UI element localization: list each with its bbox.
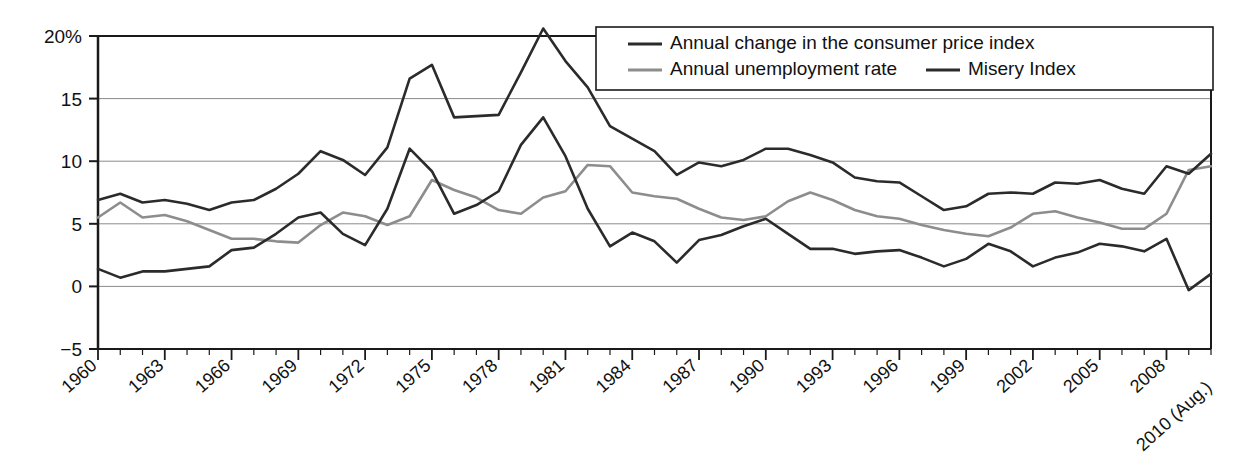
chart-canvas: −505101520% 1960196319661969197219751978… xyxy=(0,0,1260,469)
y-tick-label: 0 xyxy=(71,276,82,297)
legend-label-2: Misery Index xyxy=(968,58,1076,79)
misery-index-chart: −505101520% 1960196319661969197219751978… xyxy=(0,0,1260,469)
y-tick-label: 20% xyxy=(44,26,82,47)
y-tick-label: 10 xyxy=(61,151,82,172)
y-tick-label: −5 xyxy=(60,339,82,360)
legend-label-0: Annual change in the consumer price inde… xyxy=(670,32,1035,53)
legend-label-1: Annual unemployment rate xyxy=(670,58,897,79)
chart-legend: Annual change in the consumer price inde… xyxy=(596,27,1213,90)
y-tick-label: 5 xyxy=(71,214,82,235)
y-tick-label: 15 xyxy=(61,89,82,110)
